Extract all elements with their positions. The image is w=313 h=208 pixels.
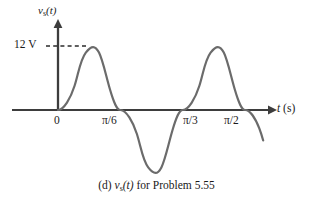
x-axis-label: t (s)	[277, 103, 295, 115]
caption-argument: (t)	[123, 179, 134, 191]
waveform-figure: vs(t) 12 V t (s) 0 π/6 π/3 π/2 (d) vs(t)…	[0, 0, 313, 208]
y-axis-arrowhead	[54, 19, 63, 28]
caption-suffix: for Problem 5.55	[134, 179, 215, 191]
x-tick-label-pi-over-2: π/2	[224, 115, 239, 127]
y-axis	[54, 19, 63, 110]
y-axis-label-argument: (t)	[46, 4, 56, 16]
x-tick-label-0: 0	[54, 115, 60, 127]
x-tick-label-pi-over-6: π/6	[102, 115, 117, 127]
x-axis-arrowhead	[268, 106, 277, 115]
x-axis-label-unit: (s)	[280, 102, 295, 114]
y-axis-label: vs(t)	[38, 5, 56, 18]
caption-prefix: (d)	[98, 179, 114, 191]
figure-caption: (d) vs(t) for Problem 5.55	[0, 180, 313, 193]
plot-canvas	[0, 0, 313, 208]
x-tick-label-pi-over-3: π/3	[183, 115, 198, 127]
amplitude-label: 12 V	[14, 39, 36, 51]
